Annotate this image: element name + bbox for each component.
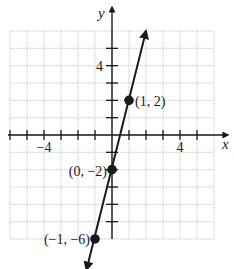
data-point (107, 165, 117, 175)
x-tick-label: 4 (177, 140, 184, 155)
x-axis-label: x (221, 136, 229, 152)
point-label: (0, −2) (69, 164, 108, 180)
point-label: (−1, −6) (44, 232, 90, 248)
y-axis-label: y (96, 5, 105, 21)
x-tick-label: −4 (37, 140, 52, 155)
y-tick-label: 4 (96, 59, 103, 74)
coordinate-plane: (1, 2)(0, −2)(−1, −6) x y −444 (0, 0, 234, 269)
data-point (124, 96, 134, 106)
point-label: (1, 2) (135, 94, 166, 110)
data-point (90, 234, 100, 244)
